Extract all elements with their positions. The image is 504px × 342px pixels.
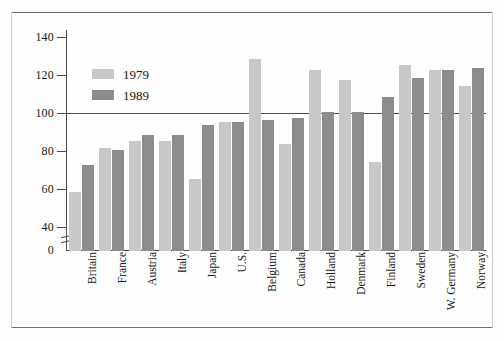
x-axis-label: Austria [147, 252, 159, 286]
bar-1979 [279, 144, 291, 251]
legend-item-1989: 1989 [92, 87, 149, 103]
x-axis-label: Canada [296, 252, 308, 286]
x-axis-label-text: Holland [326, 252, 338, 289]
x-axis-label-text: Austria [147, 252, 159, 286]
bar-1979 [339, 80, 351, 251]
bar-group [369, 26, 394, 251]
bar-1989 [112, 150, 124, 251]
x-axis-label-text: Finland [386, 252, 398, 287]
x-axis-label: Belgium [267, 252, 279, 292]
bar-group [219, 26, 244, 251]
bar-group [129, 26, 154, 251]
bar-1989 [382, 97, 394, 251]
bar-group [99, 26, 124, 251]
bar-1979 [459, 86, 471, 252]
y-axis-tick [57, 227, 66, 228]
bar-1989 [292, 118, 304, 251]
bar-groups [67, 25, 486, 251]
x-axis-label: France [117, 252, 129, 283]
x-axis-label: Holland [326, 252, 338, 289]
bar-1979 [69, 192, 81, 251]
y-axis-tick [57, 189, 66, 190]
x-axis-label: Denmark [356, 252, 368, 295]
legend-swatch-1979 [92, 69, 114, 79]
x-axis-label-text: W. Germany [446, 252, 458, 310]
bar-group [159, 26, 184, 251]
bar-1989 [172, 135, 184, 251]
y-axis-tick [57, 113, 66, 114]
bar-group [189, 26, 214, 251]
figure-frame-right-rule [492, 12, 493, 328]
bar-1989 [442, 70, 454, 251]
bar-group [249, 26, 274, 251]
bar-1989 [352, 112, 364, 251]
x-axis-label-text: Canada [296, 252, 308, 286]
x-axis-label: Japan [207, 252, 219, 278]
bar-1979 [309, 70, 321, 251]
bar-1989 [262, 120, 274, 251]
x-axis-label-text: Denmark [356, 252, 368, 295]
x-axis-label: Finland [386, 252, 398, 287]
y-axis-tick-labels: 0406080100120140 [0, 0, 54, 342]
x-axis-label: Norway [476, 252, 488, 289]
bar-1979 [249, 59, 261, 251]
bar-group [69, 26, 94, 251]
bar-1989 [412, 78, 424, 251]
bar-1979 [189, 179, 201, 251]
y-axis-tick-label: 0 [8, 244, 54, 256]
legend-label-1989: 1989 [123, 89, 149, 102]
chart-legend: 1979 1989 [92, 66, 149, 108]
bar-1979 [99, 148, 111, 251]
y-axis-tick-label: 40 [8, 221, 54, 233]
x-axis-label: Italy [177, 252, 189, 273]
bar-group [459, 26, 484, 251]
bar-1979 [219, 122, 231, 251]
bar-1979 [159, 141, 171, 251]
bar-1989 [472, 68, 484, 251]
bar-1989 [232, 122, 244, 251]
y-axis-tick-label: 60 [8, 183, 54, 195]
bar-group [279, 26, 304, 251]
bar-group [429, 26, 454, 251]
y-axis-tick [57, 151, 66, 152]
bar-group [309, 26, 334, 251]
x-axis-label: Sweden [416, 252, 428, 288]
bar-1989 [322, 112, 334, 251]
x-axis-label: W. Germany [446, 252, 458, 310]
legend-item-1979: 1979 [92, 66, 149, 82]
chart-figure: 0406080100120140 BritainFranceAustriaIta… [0, 0, 504, 342]
x-axis-label-text: Japan [207, 252, 219, 278]
y-axis-tick [57, 75, 66, 76]
x-axis-label-text: U.S. [237, 252, 249, 272]
bar-1979 [369, 162, 381, 252]
y-axis-tick-label: 120 [8, 69, 54, 81]
x-axis-label-text: Norway [476, 252, 488, 289]
bar-1979 [129, 141, 141, 251]
x-axis-label-text: Britain [87, 252, 99, 284]
bar-1979 [399, 65, 411, 251]
y-axis-tick-label: 100 [8, 107, 54, 119]
x-axis-label: Britain [87, 252, 99, 284]
x-axis-label-text: France [117, 252, 129, 283]
bar-1989 [142, 135, 154, 251]
legend-label-1979: 1979 [123, 68, 149, 81]
bar-1979 [429, 70, 441, 251]
y-axis-tick-label: 80 [8, 145, 54, 157]
x-axis-label-text: Italy [177, 252, 189, 273]
x-axis-label-text: Sweden [416, 252, 428, 288]
legend-swatch-1989 [92, 90, 114, 100]
x-axis-label-text: Belgium [267, 252, 279, 292]
bar-1989 [82, 165, 94, 251]
bar-1989 [202, 125, 214, 251]
y-axis-tick-label: 140 [8, 31, 54, 43]
bar-group [339, 26, 364, 251]
figure-frame-top-rule [11, 12, 493, 13]
y-axis-tick [57, 37, 66, 38]
bar-group [399, 26, 424, 251]
x-axis-category-labels: BritainFranceAustriaItalyJapanU.S.Belgiu… [67, 252, 486, 340]
x-axis-label: U.S. [237, 252, 249, 272]
